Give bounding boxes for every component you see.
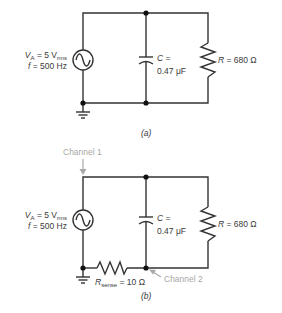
ground-icon xyxy=(76,277,90,283)
ac-source-icon xyxy=(73,210,93,230)
resistor-icon xyxy=(201,43,215,77)
capacitor-value-b: 0.47 μF xyxy=(157,226,186,236)
caption-a: (a) xyxy=(141,128,151,138)
caption-b: (b) xyxy=(141,291,151,301)
channel1-label: Channel 1 xyxy=(63,147,102,157)
resistor-icon xyxy=(201,207,215,241)
channel2-arrow-icon xyxy=(149,270,161,278)
source-voltage-label-b: VA = 5 Vrms xyxy=(10,210,67,220)
sense-resistor-label: Rsense = 10 Ω xyxy=(95,277,145,287)
circuit-diagram xyxy=(0,0,282,313)
capacitor-label-a: C = xyxy=(157,53,170,63)
channel1-arrow-icon xyxy=(80,159,87,175)
resistor-label-b: R = 680 Ω xyxy=(218,219,257,229)
source-voltage-label-a: VA = 5 Vrms xyxy=(10,50,67,60)
capacitor-value-a: 0.47 μF xyxy=(157,66,186,76)
source-frequency-label-a: f = 500 Hz xyxy=(10,61,67,71)
source-frequency-label-b: f = 500 Hz xyxy=(10,221,67,231)
ac-source-icon xyxy=(73,50,93,70)
resistor-label-a: R = 680 Ω xyxy=(218,55,257,65)
junction-dots xyxy=(80,10,148,270)
ground-icon xyxy=(76,112,90,118)
circuit-a-wires xyxy=(83,13,208,112)
sense-resistor-icon xyxy=(97,262,127,274)
channel2-label: Channel 2 xyxy=(164,274,203,284)
circuit-b-wires xyxy=(83,177,208,277)
capacitor-label-b: C = xyxy=(157,213,170,223)
